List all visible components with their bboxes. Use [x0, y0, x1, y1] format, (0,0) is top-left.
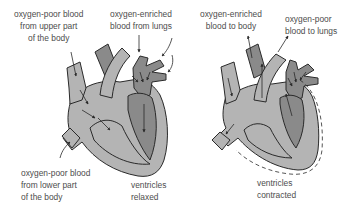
caption-line: relaxed — [131, 191, 166, 203]
label-line: blood to body — [200, 20, 262, 32]
label-to-lungs-outflow: oxygen-poor blood to lungs — [285, 13, 337, 37]
label-line: blood to lungs — [285, 25, 337, 37]
heart-relaxed — [62, 44, 167, 176]
label-line: of the body — [21, 191, 90, 203]
label-upper-body-inflow: oxygen-poor blood from upper part of the… — [14, 8, 83, 44]
label-line: oxygen-enriched — [110, 8, 172, 20]
caption-ventricles-relaxed: ventricles relaxed — [131, 179, 166, 203]
caption-line: ventricles — [257, 177, 296, 189]
heart-contracted — [212, 44, 319, 170]
label-line: oxygen-poor blood — [14, 8, 83, 20]
label-line: oxygen-poor — [285, 13, 337, 25]
label-line: from lower part — [21, 179, 90, 191]
label-to-body-outflow: oxygen-enriched blood to body — [200, 8, 262, 32]
caption-ventricles-contracted: ventricles contracted — [257, 177, 296, 201]
label-line: oxygen-enriched — [200, 8, 262, 20]
label-lungs-inflow: oxygen-enriched blood from lungs — [110, 8, 172, 32]
label-line: oxygen-poor blood — [21, 167, 90, 179]
label-line: from upper part — [14, 20, 83, 32]
label-line: of the body — [14, 32, 83, 44]
label-line: blood from lungs — [110, 20, 172, 32]
caption-line: contracted — [257, 189, 296, 201]
caption-line: ventricles — [131, 179, 166, 191]
label-lower-body-inflow: oxygen-poor blood from lower part of the… — [21, 167, 90, 203]
